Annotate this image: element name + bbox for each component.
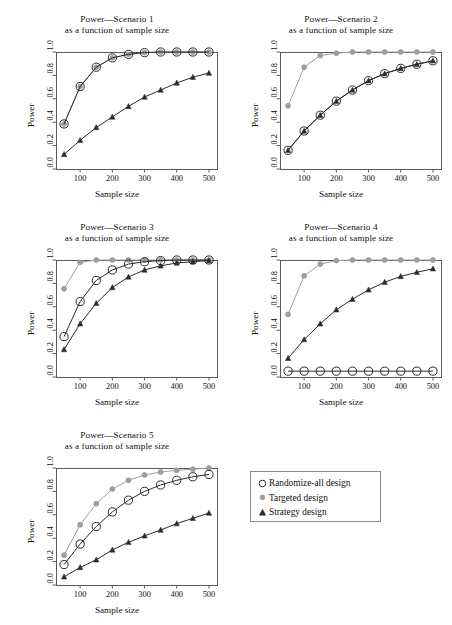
- x-tick-label: 500: [203, 590, 216, 599]
- x-tick-label: 200: [330, 382, 343, 391]
- x-tick-label: 100: [74, 174, 87, 183]
- y-axis-label: Power: [26, 103, 36, 126]
- x-tick-label: 400: [394, 382, 407, 391]
- x-tick-label: 400: [170, 382, 183, 391]
- series-strategy-scenario-2: [285, 58, 435, 153]
- series-strategy-scenario-4: [285, 266, 435, 361]
- chart-panel-scenario-3: Power—Scenario 3as a function of sample …: [4, 208, 230, 416]
- x-tick-label: 200: [330, 174, 343, 183]
- open-circle-icon: [256, 478, 268, 489]
- chart-panel-scenario-5: Power—Scenario 5as a function of sample …: [4, 416, 230, 624]
- chart-panel-scenario-1: Power—Scenario 1as a function of sample …: [4, 0, 230, 208]
- x-tick-label: 400: [394, 174, 407, 183]
- series-targeted-scenario-4: [286, 258, 436, 317]
- x-tick-label: 100: [74, 382, 87, 391]
- x-tick-label: 500: [427, 382, 440, 391]
- series-randomize-scenario-3: [60, 256, 213, 341]
- y-axis-label: Power: [26, 519, 36, 542]
- series-targeted-scenario-2: [286, 50, 436, 109]
- legend-item-randomize: Randomize-all design: [256, 476, 374, 491]
- x-tick-label: 500: [203, 382, 216, 391]
- x-tick-label: 300: [362, 174, 375, 183]
- x-tick-label: 500: [427, 174, 440, 183]
- series-randomize-scenario-4: [284, 367, 437, 375]
- x-tick-label: 300: [138, 382, 151, 391]
- legend-item-strategy: Strategy design: [256, 505, 374, 520]
- x-tick-label: 100: [74, 590, 87, 599]
- x-tick-label: 300: [138, 590, 151, 599]
- x-tick-label: 200: [106, 382, 119, 391]
- series-strategy-scenario-1: [61, 70, 211, 156]
- y-axis-label: Power: [26, 311, 36, 334]
- x-tick-label: 200: [106, 174, 119, 183]
- x-tick-label: 400: [170, 590, 183, 599]
- x-tick-label: 100: [298, 174, 311, 183]
- x-axis-label: Sample size: [4, 189, 230, 199]
- x-tick-label: 400: [170, 174, 183, 183]
- legend-item-targeted: Targeted design: [256, 491, 374, 506]
- design-legend: Randomize-all designTargeted designStrat…: [250, 471, 381, 522]
- legend-label: Targeted design: [268, 493, 328, 503]
- legend-label: Randomize-all design: [268, 478, 350, 488]
- x-tick-label: 500: [203, 174, 216, 183]
- chart-panel-scenario-2: Power—Scenario 2as a function of sample …: [228, 0, 452, 208]
- x-axis-label: Sample size: [4, 605, 230, 615]
- series-randomize-scenario-2: [284, 57, 437, 155]
- x-tick-label: 300: [362, 382, 375, 391]
- y-axis-label: Power: [250, 103, 260, 126]
- x-tick-label: 300: [138, 174, 151, 183]
- legend-label: Strategy design: [268, 507, 327, 517]
- x-axis-label: Sample size: [228, 189, 452, 199]
- chart-panel-scenario-4: Power—Scenario 4as a function of sample …: [228, 208, 452, 416]
- filled-triangle-icon: [256, 507, 268, 518]
- series-randomize-scenario-1: [60, 48, 213, 128]
- x-tick-label: 200: [106, 590, 119, 599]
- x-axis-label: Sample size: [228, 397, 452, 407]
- y-axis-label: Power: [250, 311, 260, 334]
- series-strategy-scenario-3: [61, 258, 211, 352]
- filled-circle-icon: [256, 492, 268, 503]
- x-axis-label: Sample size: [4, 397, 230, 407]
- x-tick-label: 100: [298, 382, 311, 391]
